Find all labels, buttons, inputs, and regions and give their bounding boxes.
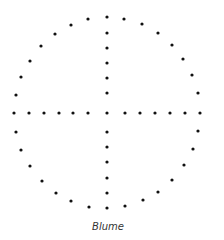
dot (140, 22, 143, 25)
dot (105, 31, 108, 34)
dot (105, 206, 108, 209)
dot (86, 111, 89, 114)
dot (156, 31, 159, 34)
dot (12, 111, 15, 114)
dot (191, 147, 194, 150)
dot (27, 111, 30, 114)
dot (71, 111, 74, 114)
dot (105, 61, 108, 64)
dot (123, 204, 126, 207)
dot (156, 190, 159, 193)
dot (54, 191, 57, 194)
dot (19, 148, 22, 151)
dot (40, 179, 43, 182)
dotted-circle-cross-diagram (0, 0, 224, 240)
dot (14, 93, 17, 96)
dot (105, 191, 108, 194)
dot (122, 17, 125, 20)
figure-caption: Blume (0, 221, 216, 232)
dot (105, 130, 108, 133)
dot (182, 163, 185, 166)
dot (87, 205, 90, 208)
dot (28, 59, 31, 62)
dot (69, 199, 72, 202)
dot (181, 57, 184, 60)
dot (190, 73, 193, 76)
dot (105, 76, 108, 79)
dot (105, 15, 108, 18)
dot (53, 32, 56, 35)
dot (196, 129, 199, 132)
dot (105, 46, 108, 49)
dot (170, 43, 173, 46)
dot (105, 111, 108, 114)
dot (14, 130, 17, 133)
dot (42, 111, 45, 114)
dot (141, 198, 144, 201)
dot (57, 111, 60, 114)
dot (105, 145, 108, 148)
dot (105, 176, 108, 179)
dot (39, 44, 42, 47)
dot (105, 160, 108, 163)
dot (123, 111, 126, 114)
dot (196, 91, 199, 94)
dot (86, 17, 89, 20)
dot (168, 111, 171, 114)
dot (105, 91, 108, 94)
dot (198, 111, 201, 114)
dot (28, 164, 31, 167)
dot (69, 23, 72, 26)
dot (19, 75, 22, 78)
dot (183, 111, 186, 114)
dot (153, 111, 156, 114)
dot (170, 178, 173, 181)
dot (138, 111, 141, 114)
